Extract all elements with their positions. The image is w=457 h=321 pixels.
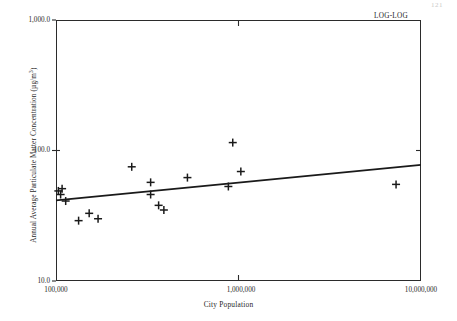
x-axis-title: City Population xyxy=(0,300,457,309)
figure-container: 121 LOG-LOG 1,000.0 100.0 10.0 100,000 1… xyxy=(0,0,457,321)
y-axis-title-paren: ) xyxy=(30,68,38,71)
x-tick-label-10000000: 10,000,000 xyxy=(386,286,456,294)
page-number: 121 xyxy=(431,1,443,9)
log-log-annotation: LOG-LOG xyxy=(374,12,408,20)
y-axis-title: Annual Average Particulate Matter Concen… xyxy=(28,35,38,275)
y-axis-title-text: Annual Average Particulate Matter Concen… xyxy=(30,73,38,243)
x-tick-label-100000: 100,000 xyxy=(26,286,86,294)
plot-frame xyxy=(56,20,421,281)
y-tick-label-10: 10.0 xyxy=(6,277,50,285)
y-tick-label-1000: 1,000.0 xyxy=(6,16,50,24)
y-axis-title-exponent: 3 xyxy=(28,70,34,73)
x-tick-label-1000000: 1,000,000 xyxy=(208,286,274,294)
